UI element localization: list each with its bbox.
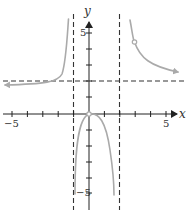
middle-branch	[75, 114, 114, 195]
left-branch	[5, 19, 69, 85]
x-tick-label-5: 5	[163, 119, 169, 129]
right-branch	[130, 20, 178, 72]
curves	[5, 19, 178, 195]
x-tick-label-neg5: −5	[4, 119, 19, 129]
y-tick-label-5: 5	[80, 28, 86, 38]
asymptotes	[3, 14, 184, 210]
hole-right-branch	[132, 40, 136, 44]
y-axis-label: y	[84, 5, 91, 17]
y-tick-label-neg5: −5	[76, 188, 91, 198]
x-axis-label: x	[179, 108, 186, 120]
hole-at-origin	[87, 112, 91, 116]
graph	[0, 0, 187, 210]
